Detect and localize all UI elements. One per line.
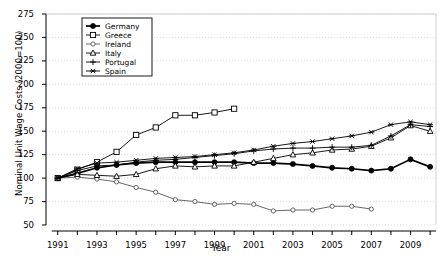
chart-figure: Nominal Unit Wage Costs (2000=100) Year …	[0, 0, 442, 259]
legend-label: Italy	[105, 49, 122, 58]
legend-label: Germany	[105, 22, 140, 31]
legend-label: Spain	[105, 67, 126, 76]
legend: GermanyGreeceIrelandItalyPortugalSpain	[82, 18, 152, 76]
series-spain	[55, 120, 433, 181]
plot-area: GermanyGreeceIrelandItalyPortugalSpain	[0, 0, 442, 259]
series-ireland	[56, 175, 374, 213]
series-germany	[55, 157, 432, 181]
legend-label: Greece	[105, 31, 132, 40]
legend-label: Ireland	[105, 40, 131, 49]
legend-label: Portugal	[105, 58, 136, 67]
